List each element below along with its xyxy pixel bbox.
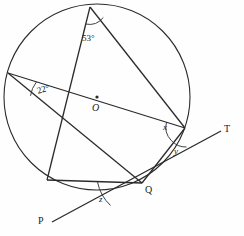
angle-arc-53 (86, 18, 104, 25)
chord-right-to-q (142, 128, 185, 183)
angle-label-53: 53° (82, 34, 95, 43)
geometry-diagram-page: 53° 22° O x y z Q P T (0, 0, 244, 236)
angle-label-y: y (174, 147, 178, 156)
point-label-p: P (38, 216, 44, 226)
point-label-t: T (224, 124, 230, 134)
chord-left-to-right-diameter (8, 73, 185, 128)
angle-label-x: x (163, 123, 167, 132)
center-point-dot (95, 95, 98, 98)
tangent-line-pqt (52, 131, 221, 222)
circle-geometry-figure (0, 0, 244, 236)
chord-left-to-q (8, 73, 142, 183)
angle-label-z: z (99, 195, 103, 204)
chord-top-to-right (90, 7, 185, 128)
center-label-o: O (92, 103, 99, 113)
point-label-q: Q (145, 185, 152, 195)
